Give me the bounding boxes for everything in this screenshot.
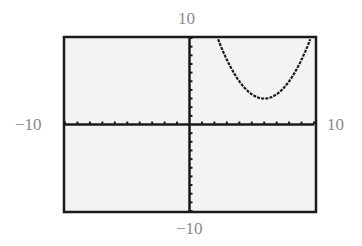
graph-screen xyxy=(0,0,362,246)
